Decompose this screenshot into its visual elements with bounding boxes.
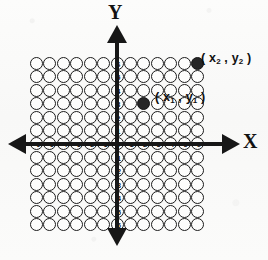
grid-circle (84, 151, 97, 164)
grid-circle (124, 164, 137, 177)
grid-circle (137, 57, 150, 70)
grid-circle (30, 97, 43, 110)
grid-circle (151, 70, 164, 83)
grid-circle (43, 70, 56, 83)
point-2-label-open: ( (201, 51, 209, 65)
x-axis-label: X (243, 130, 257, 153)
grid-circle (178, 205, 191, 218)
grid-circle (137, 70, 150, 83)
grid-circle (70, 97, 83, 110)
grid-circle (137, 164, 150, 177)
grid-circle (137, 178, 150, 191)
grid-circle (70, 178, 83, 191)
y-axis-line (115, 32, 118, 240)
grid-circle (151, 124, 164, 137)
grid-circle (124, 205, 137, 218)
grid-circle (178, 151, 191, 164)
grid-circle (84, 205, 97, 218)
grid-circle (43, 111, 56, 124)
grid-circle (57, 191, 70, 204)
grid-circle (124, 178, 137, 191)
grid-circle (84, 178, 97, 191)
grid-circle (97, 151, 110, 164)
grid-circle (30, 124, 43, 137)
grid-circle (191, 111, 204, 124)
grid-circle (43, 84, 56, 97)
x-axis-line (18, 142, 230, 145)
grid-circle (191, 164, 204, 177)
grid-circle (57, 205, 70, 218)
grid-circle (164, 124, 177, 137)
point-1-label: ( x1 , y1 ) (155, 90, 205, 105)
grid-circle (43, 205, 56, 218)
grid-circle (151, 151, 164, 164)
grid-circle (191, 124, 204, 137)
grid-circle (178, 164, 191, 177)
grid-circle (70, 205, 83, 218)
grid-circle (43, 218, 56, 231)
grid-circle (84, 70, 97, 83)
grid-circle (137, 124, 150, 137)
grid-circle (70, 151, 83, 164)
grid-circle (97, 97, 110, 110)
point-1-label-close: ) (197, 90, 205, 104)
grid-circle (178, 178, 191, 191)
grid-circle (124, 151, 137, 164)
grid-circle (151, 111, 164, 124)
grid-circle (70, 191, 83, 204)
grid-circle (70, 218, 83, 231)
grid-circle (30, 151, 43, 164)
grid-circle (191, 205, 204, 218)
grid-circle (97, 205, 110, 218)
grid-circle (84, 84, 97, 97)
grid-circle (30, 205, 43, 218)
grid-circle (43, 97, 56, 110)
grid-circle (191, 70, 204, 83)
coordinate-plane-figure: 654321-6-5-4-3-2-10123456-1-2-3-4-5-6 X … (0, 0, 268, 260)
grid-circle (84, 57, 97, 70)
grid-circle (70, 57, 83, 70)
grid-circle (97, 178, 110, 191)
grid-circle (151, 178, 164, 191)
grid-circle (137, 84, 150, 97)
grid-circle (124, 124, 137, 137)
x-axis-left-arrow-icon (8, 134, 26, 154)
grid-circle (151, 205, 164, 218)
grid-circle (57, 164, 70, 177)
grid-circle (151, 164, 164, 177)
grid-circle (70, 164, 83, 177)
point-1-label-open: ( (155, 90, 163, 104)
y-axis-label: Y (108, 1, 122, 24)
grid-circle (124, 84, 137, 97)
grid-circle (178, 111, 191, 124)
grid-circle (164, 191, 177, 204)
grid-circle (164, 57, 177, 70)
grid-circle (191, 191, 204, 204)
grid-circle (97, 124, 110, 137)
grid-circle (151, 218, 164, 231)
grid-circle (164, 151, 177, 164)
grid-circle (97, 57, 110, 70)
grid-circle (43, 124, 56, 137)
grid-circle (57, 57, 70, 70)
grid-circle (30, 218, 43, 231)
grid-circle (178, 57, 191, 70)
grid-circle (124, 191, 137, 204)
grid-circle (57, 151, 70, 164)
y-axis-down-arrow-icon (107, 228, 127, 246)
grid-circle (30, 111, 43, 124)
grid-circle (178, 70, 191, 83)
grid-circle (97, 191, 110, 204)
grid-circle (97, 164, 110, 177)
grid-circle (164, 218, 177, 231)
grid-circle (97, 70, 110, 83)
grid-circle (164, 164, 177, 177)
grid-circle (124, 70, 137, 83)
grid-circle (164, 111, 177, 124)
grid-circle (137, 205, 150, 218)
grid-circle (57, 178, 70, 191)
grid-circle (57, 111, 70, 124)
grid-circle (30, 84, 43, 97)
point-1-label-y: y (186, 90, 193, 104)
grid-circle (57, 124, 70, 137)
